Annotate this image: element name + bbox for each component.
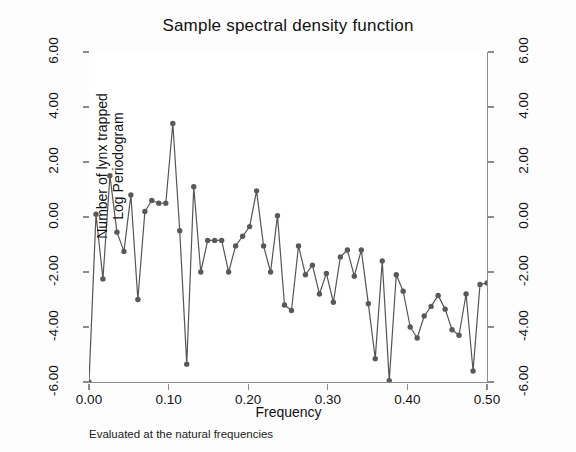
data-point <box>442 306 447 311</box>
y-axis-title: Number of lynx trapped Log Periodogram <box>94 36 126 296</box>
x-axis-title: Frequency <box>89 404 488 420</box>
y-tick-label-right: -6.00 <box>516 355 531 407</box>
data-point <box>184 361 189 366</box>
x-tick <box>248 384 249 390</box>
y-tick-label-left: -2.00 <box>46 245 61 297</box>
data-point <box>296 243 301 248</box>
x-axis-line <box>89 382 488 383</box>
data-point <box>428 304 433 309</box>
data-point <box>422 313 427 318</box>
y-tick-left <box>83 326 89 327</box>
y-tick-right <box>488 51 494 52</box>
y-tick-left <box>83 216 89 217</box>
data-point <box>212 238 217 243</box>
y-tick-left <box>83 51 89 52</box>
data-point <box>435 293 440 298</box>
data-point <box>282 302 287 307</box>
x-tick <box>407 384 408 390</box>
y-tick-right <box>488 106 494 107</box>
data-point <box>261 243 266 248</box>
data-point <box>400 289 405 294</box>
data-point <box>470 368 475 373</box>
data-point <box>359 247 364 252</box>
data-point <box>191 184 196 189</box>
data-point <box>219 238 224 243</box>
data-point <box>310 262 315 267</box>
series-line <box>89 124 487 383</box>
data-point <box>324 271 329 276</box>
y-tick-right <box>488 216 494 217</box>
data-point <box>303 272 308 277</box>
y-tick-label-right: -4.00 <box>516 300 531 352</box>
data-point <box>170 121 175 126</box>
y-tick-label-right: 2.00 <box>516 135 531 187</box>
x-tick <box>327 384 328 390</box>
data-point <box>366 301 371 306</box>
data-point <box>484 280 487 285</box>
y-tick-label-right: 0.00 <box>516 190 531 242</box>
y-tick-left <box>83 381 89 382</box>
data-point <box>407 324 412 329</box>
y-tick-label-left: 2.00 <box>46 135 61 187</box>
y-tick-label-right: 4.00 <box>516 80 531 132</box>
plot-area <box>89 52 487 382</box>
data-point <box>394 272 399 277</box>
data-point <box>240 234 245 239</box>
y-tick-right <box>488 271 494 272</box>
data-point <box>275 213 280 218</box>
y-tick-left <box>83 271 89 272</box>
data-point <box>254 188 259 193</box>
chart-title: Sample spectral density function <box>0 16 576 36</box>
y-tick-right <box>488 326 494 327</box>
series-plot <box>89 52 487 382</box>
y-tick-label-right: -2.00 <box>516 245 531 297</box>
x-tick <box>168 384 169 390</box>
data-point <box>149 198 154 203</box>
data-point <box>268 269 273 274</box>
data-point <box>477 282 482 287</box>
y-tick-right <box>488 161 494 162</box>
data-point <box>289 308 294 313</box>
data-point <box>135 297 140 302</box>
chart-figure: Sample spectral density function 6.006.0… <box>0 0 576 452</box>
data-point <box>163 201 168 206</box>
data-point <box>380 258 385 263</box>
data-point <box>317 291 322 296</box>
y-tick-label-left: 4.00 <box>46 80 61 132</box>
y-tick-left <box>83 161 89 162</box>
data-point <box>233 243 238 248</box>
y-tick-label-right: 6.00 <box>516 25 531 77</box>
data-point <box>156 201 161 206</box>
data-point <box>387 378 392 382</box>
data-point <box>456 333 461 338</box>
data-point <box>373 356 378 361</box>
data-point <box>331 300 336 305</box>
x-tick <box>486 384 487 390</box>
data-point <box>198 269 203 274</box>
data-point <box>89 379 92 382</box>
y-tick-left <box>83 106 89 107</box>
data-point <box>247 224 252 229</box>
data-point <box>177 228 182 233</box>
data-point <box>128 192 133 197</box>
data-point <box>463 291 468 296</box>
data-point <box>352 273 357 278</box>
y-tick-label-left: 6.00 <box>46 25 61 77</box>
y-tick-right <box>488 381 494 382</box>
data-point <box>338 254 343 259</box>
y-tick-label-left: 0.00 <box>46 190 61 242</box>
data-point <box>449 327 454 332</box>
chart-footnote: Evaluated at the natural frequencies <box>89 428 273 440</box>
data-point <box>226 269 231 274</box>
x-tick <box>88 384 89 390</box>
data-point <box>345 247 350 252</box>
y-tick-label-left: -6.00 <box>46 355 61 407</box>
y-tick-label-left: -4.00 <box>46 300 61 352</box>
data-point <box>142 209 147 214</box>
y-axis-title-line1: Number of lynx trapped <box>94 36 110 296</box>
data-point <box>414 335 419 340</box>
data-point <box>205 238 210 243</box>
y-axis-title-line2: Log Periodogram <box>110 36 126 296</box>
